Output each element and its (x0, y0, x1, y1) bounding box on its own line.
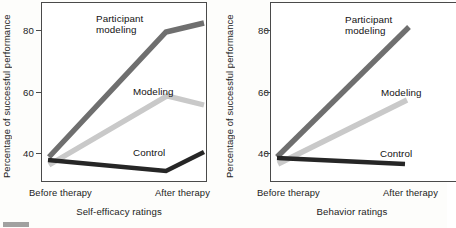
series-label-modeling-left: Modeling (133, 86, 174, 97)
line-participant-modeling-left (49, 23, 204, 157)
page-edge-artifact (3, 222, 29, 227)
series-label-participant-modeling-right-line2: modeling (345, 25, 386, 36)
series-label-participant-modeling-right: Participant modeling (345, 14, 392, 37)
series-label-modeling-right: Modeling (381, 87, 422, 98)
series-label-participant-modeling-left-line2: modeling (96, 24, 137, 35)
panel-caption-right: Behavior ratings (257, 206, 447, 217)
x-tick-label-after-left: After therapy (155, 187, 210, 198)
series-label-control-right: Control (380, 148, 412, 159)
x-tick-label-before-left: Before therapy (29, 187, 92, 198)
panel-caption-left: Self-efficacy ratings (29, 206, 209, 217)
series-label-participant-modeling-right-line1: Participant (345, 14, 392, 25)
panel-self-efficacy: Percentage of successful performance 80 … (0, 0, 224, 228)
panel-behavior-ratings: Percentage of successful performance 80 … (223, 0, 447, 228)
series-label-participant-modeling-left: Participant modeling (96, 13, 143, 36)
x-tick-label-after-right: After therapy (383, 187, 438, 198)
x-tick-label-before-right: Before therapy (257, 187, 320, 198)
series-label-participant-modeling-left-line1: Participant (96, 13, 143, 24)
series-label-control-left: Control (133, 147, 165, 158)
